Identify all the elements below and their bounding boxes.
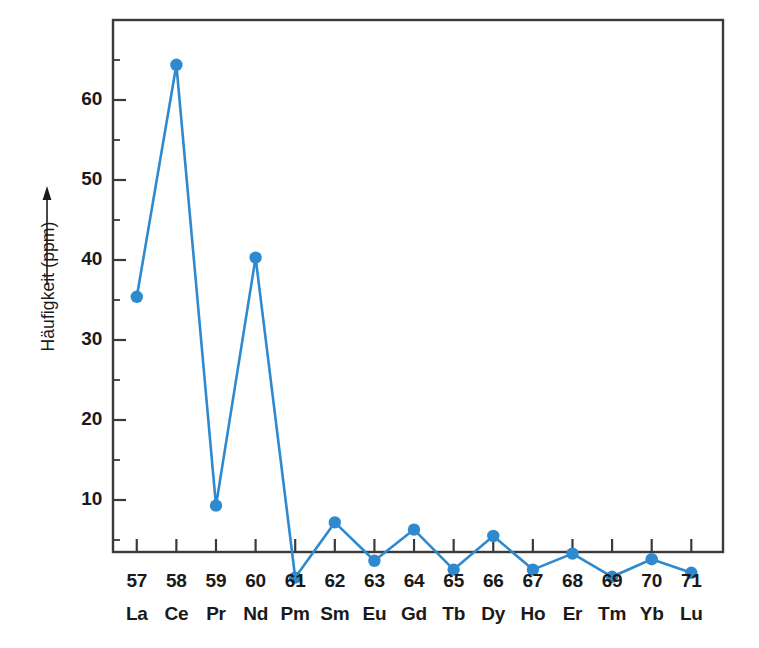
data-series-line (137, 65, 692, 578)
x-tick-element-symbol: La (115, 603, 159, 625)
x-tick-atomic-number: 61 (273, 570, 317, 592)
x-tick-element-symbol: Ho (511, 603, 555, 625)
x-tick-atomic-number: 66 (471, 570, 515, 592)
y-tick-label: 20 (56, 408, 102, 430)
x-tick-element-symbol: Sm (313, 603, 357, 625)
y-tick-label: 40 (56, 248, 102, 270)
data-point-marker (487, 530, 499, 542)
data-point-marker (210, 499, 222, 511)
x-tick-atomic-number: 57 (115, 570, 159, 592)
x-tick-atomic-number: 67 (511, 570, 555, 592)
x-tick-atomic-number: 70 (630, 570, 674, 592)
plot-frame (113, 20, 723, 552)
x-tick-atomic-number: 59 (194, 570, 238, 592)
x-tick-element-symbol: Ce (154, 603, 198, 625)
x-tick-atomic-number: 69 (590, 570, 634, 592)
data-point-marker (131, 291, 143, 303)
x-tick-element-symbol: Pm (273, 603, 317, 625)
x-tick-atomic-number: 60 (234, 570, 278, 592)
data-point-marker (646, 553, 658, 565)
x-tick-atomic-number: 63 (352, 570, 396, 592)
y-axis-title-group: Häufigkeit (ppm) (14, 150, 60, 450)
x-tick-element-symbol: Pr (194, 603, 238, 625)
x-tick-atomic-number: 64 (392, 570, 436, 592)
y-tick-label: 50 (56, 168, 102, 190)
y-axis-ticks (113, 60, 126, 540)
data-point-marker (170, 59, 182, 71)
chart-svg (0, 0, 759, 648)
x-tick-element-symbol: Lu (669, 603, 713, 625)
x-tick-atomic-number: 71 (669, 570, 713, 592)
x-tick-atomic-number: 68 (550, 570, 594, 592)
y-tick-label: 10 (56, 488, 102, 510)
x-tick-element-symbol: Gd (392, 603, 436, 625)
y-tick-label: 60 (56, 88, 102, 110)
x-tick-element-symbol: Tm (590, 603, 634, 625)
data-point-marker (408, 523, 420, 535)
x-axis-ticks (137, 539, 692, 552)
data-series-markers (131, 59, 698, 584)
x-tick-element-symbol: Tb (432, 603, 476, 625)
x-tick-element-symbol: Yb (630, 603, 674, 625)
y-axis-title: Häufigkeit (ppm) (38, 157, 59, 417)
x-tick-element-symbol: Dy (471, 603, 515, 625)
data-point-marker (566, 547, 578, 559)
lanthanide-abundance-chart: Häufigkeit (ppm) 102030405060 57La58Ce59… (0, 0, 759, 648)
data-point-marker (368, 555, 380, 567)
x-tick-element-symbol: Eu (352, 603, 396, 625)
x-tick-atomic-number: 58 (154, 570, 198, 592)
x-tick-element-symbol: Er (550, 603, 594, 625)
data-point-marker (249, 251, 261, 263)
x-tick-element-symbol: Nd (234, 603, 278, 625)
x-tick-atomic-number: 62 (313, 570, 357, 592)
data-point-marker (329, 516, 341, 528)
y-tick-label: 30 (56, 328, 102, 350)
x-tick-atomic-number: 65 (432, 570, 476, 592)
